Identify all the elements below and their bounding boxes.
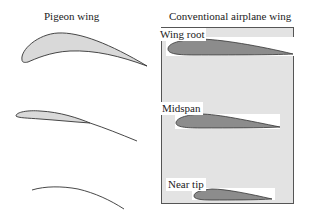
label-near-tip: Near tip: [166, 178, 206, 191]
label-wing-root: Wing root: [158, 28, 206, 41]
pigeon-root-section: [22, 33, 147, 66]
label-midspan: Midspan: [160, 102, 203, 115]
pigeon-midspan-section: [16, 111, 137, 141]
wing-diagram: [0, 0, 309, 217]
pigeon-tip-section: [32, 187, 124, 209]
